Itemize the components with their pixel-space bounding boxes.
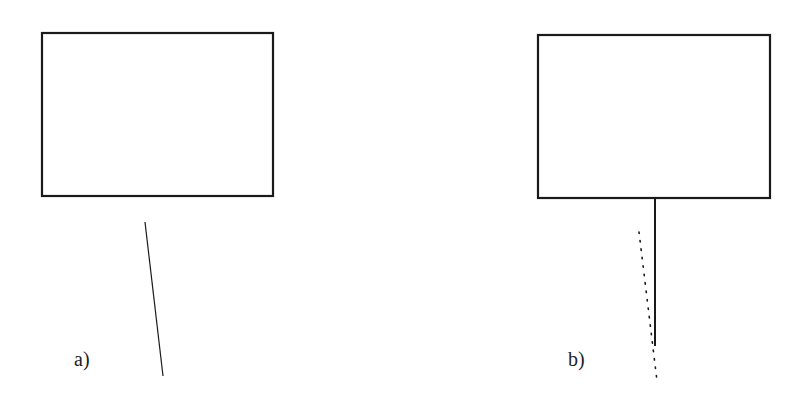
panel-b-label: b) [568,348,585,371]
diagram-canvas [0,0,806,397]
panel-a-tilted-line [145,222,163,376]
panel-b [538,35,770,381]
panel-a [42,33,273,376]
panel-a-label: a) [74,348,90,371]
panel-a-box [42,33,273,196]
panel-b-box [538,35,770,198]
